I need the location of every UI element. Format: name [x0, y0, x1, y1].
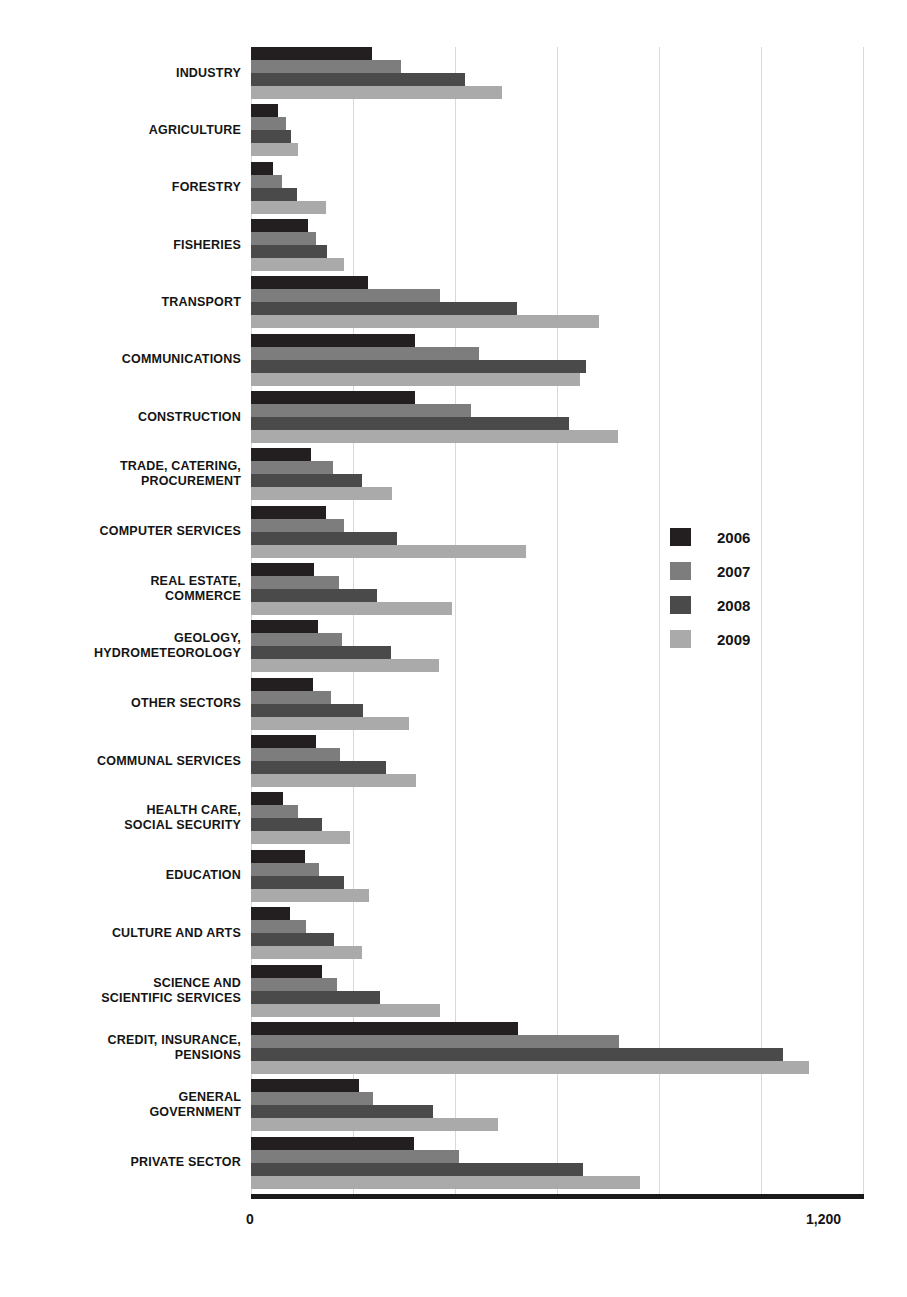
legend: 2006200720082009 [670, 520, 830, 656]
bar-2007 [251, 1092, 373, 1105]
bar-2008 [251, 646, 391, 659]
bar-2009 [251, 1061, 809, 1074]
bar-2008 [251, 1105, 433, 1118]
x-axis-tick-min: 0 [246, 1211, 254, 1227]
bar-group [251, 563, 452, 615]
category-label-line: COMMUNICATIONS [11, 352, 241, 367]
bar-2007 [251, 117, 286, 130]
category-label-line: PENSIONS [11, 1048, 241, 1063]
bar-group [251, 620, 439, 672]
bar-2007 [251, 748, 340, 761]
bar-group [251, 792, 350, 844]
category-label-line: TRADE, CATERING, [11, 459, 241, 474]
x-axis-line [251, 1194, 864, 1199]
bar-2009 [251, 831, 350, 844]
chart-row: INDUSTRY [0, 47, 907, 104]
legend-swatch-icon [670, 596, 691, 614]
bar-2007 [251, 60, 401, 73]
category-label: CREDIT, INSURANCE,PENSIONS [11, 1033, 241, 1063]
chart-row: HEALTH CARE,SOCIAL SECURITY [0, 792, 907, 849]
bar-2007 [251, 175, 282, 188]
legend-label: 2009 [717, 631, 750, 648]
chart-row: PRIVATE SECTOR [0, 1137, 907, 1194]
bar-2006 [251, 1022, 518, 1035]
bar-2006 [251, 506, 326, 519]
bar-group [251, 219, 344, 271]
chart-row: EDUCATION [0, 850, 907, 907]
bar-2006 [251, 276, 368, 289]
category-label-line: CULTURE AND ARTS [11, 926, 241, 941]
bar-group [251, 391, 618, 443]
bar-2009 [251, 315, 599, 328]
chart-row: CREDIT, INSURANCE,PENSIONS [0, 1022, 907, 1079]
category-label-line: REAL ESTATE, [11, 574, 241, 589]
legend-swatch-icon [670, 562, 691, 580]
category-label-line: COMMUNAL SERVICES [11, 754, 241, 769]
bar-2007 [251, 576, 339, 589]
bar-group [251, 678, 409, 730]
legend-item-2009[interactable]: 2009 [670, 622, 830, 656]
bar-2009 [251, 1118, 498, 1131]
category-label: FISHERIES [11, 238, 241, 253]
bar-2008 [251, 876, 344, 889]
bar-2006 [251, 1137, 414, 1150]
legend-label: 2008 [717, 597, 750, 614]
legend-item-2006[interactable]: 2006 [670, 520, 830, 554]
bar-2007 [251, 347, 479, 360]
category-label-line: SOCIAL SECURITY [11, 818, 241, 833]
bar-2006 [251, 1079, 359, 1092]
bar-2009 [251, 602, 452, 615]
category-label: AGRICULTURE [11, 123, 241, 138]
category-label: COMMUNAL SERVICES [11, 754, 241, 769]
category-label: TRADE, CATERING,PROCUREMENT [11, 459, 241, 489]
bar-group [251, 1137, 640, 1189]
bar-chart: INDUSTRYAGRICULTUREFORESTRYFISHERIESTRAN… [0, 0, 907, 1297]
chart-row: CONSTRUCTION [0, 391, 907, 448]
legend-item-2007[interactable]: 2007 [670, 554, 830, 588]
category-label: HEALTH CARE,SOCIAL SECURITY [11, 803, 241, 833]
bar-2006 [251, 678, 313, 691]
bar-2006 [251, 850, 305, 863]
bar-group [251, 506, 526, 558]
bar-2009 [251, 1004, 440, 1017]
bar-2009 [251, 545, 526, 558]
bar-2006 [251, 334, 415, 347]
legend-item-2008[interactable]: 2008 [670, 588, 830, 622]
bar-2009 [251, 430, 618, 443]
category-label: EDUCATION [11, 868, 241, 883]
bar-2007 [251, 461, 333, 474]
bar-2009 [251, 201, 326, 214]
category-label-line: COMMERCE [11, 589, 241, 604]
bar-2008 [251, 818, 322, 831]
bar-2008 [251, 1163, 583, 1176]
bar-2007 [251, 633, 342, 646]
category-label: CONSTRUCTION [11, 410, 241, 425]
legend-swatch-icon [670, 528, 691, 546]
category-label-line: SCIENTIFIC SERVICES [11, 991, 241, 1006]
chart-row: TRANSPORT [0, 276, 907, 333]
legend-label: 2006 [717, 529, 750, 546]
category-label: GENERALGOVERNMENT [11, 1090, 241, 1120]
bar-2008 [251, 360, 586, 373]
bar-2008 [251, 589, 377, 602]
bar-2009 [251, 487, 392, 500]
bar-2006 [251, 47, 372, 60]
bar-2007 [251, 805, 298, 818]
category-label: OTHER SECTORS [11, 696, 241, 711]
bar-group [251, 47, 502, 99]
chart-row: AGRICULTURE [0, 104, 907, 161]
category-label-line: CREDIT, INSURANCE, [11, 1033, 241, 1048]
category-label: FORESTRY [11, 180, 241, 195]
chart-row: FORESTRY [0, 162, 907, 219]
bar-group [251, 104, 298, 156]
bar-group [251, 1079, 498, 1131]
bar-2009 [251, 1176, 640, 1189]
bar-group [251, 735, 416, 787]
category-label: REAL ESTATE,COMMERCE [11, 574, 241, 604]
bar-2008 [251, 417, 569, 430]
category-label-line: SCIENCE AND [11, 976, 241, 991]
bar-2009 [251, 717, 409, 730]
bar-2009 [251, 659, 439, 672]
chart-row: GENERALGOVERNMENT [0, 1079, 907, 1136]
bar-2007 [251, 1035, 619, 1048]
